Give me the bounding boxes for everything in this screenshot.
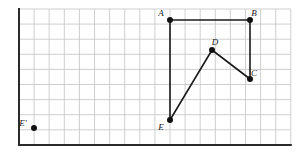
vertex-points (167, 17, 253, 123)
polygon-edge-d-e (170, 50, 212, 120)
extra-point-label-e-prime: E' (18, 118, 27, 128)
vertex-label-d: D (211, 37, 219, 47)
vertex-point-d (209, 47, 215, 53)
vertex-label-e: E (157, 122, 164, 132)
vertex-point-e (167, 117, 173, 123)
figure-canvas: ABCDE E' (0, 0, 307, 156)
vertex-label-a: A (157, 8, 164, 18)
extra-point-labels: E' (18, 118, 27, 128)
vertex-point-a (167, 17, 173, 23)
extra-points (31, 125, 37, 131)
extra-point-e-prime (31, 125, 37, 131)
vertex-label-c: C (251, 68, 258, 78)
geometry-figure: ABCDE E' (0, 0, 307, 156)
vertex-labels: ABCDE (157, 8, 258, 132)
vertex-label-b: B (251, 8, 257, 18)
polygon-edges (170, 20, 250, 120)
